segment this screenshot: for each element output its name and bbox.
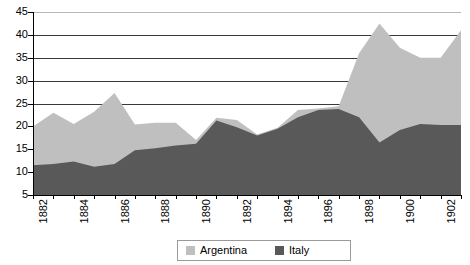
x-tick-mark-1887 (135, 195, 136, 199)
x-tick-mark-1903 (461, 195, 462, 199)
legend-item-argentina: Argentina (186, 244, 247, 256)
x-tick-label-1896: 1896 (323, 199, 334, 223)
x-tick-mark-1901 (420, 195, 421, 199)
x-tick-mark-1884 (74, 195, 75, 199)
stacked-area-chart: 51015202530354045 1882188418861888189018… (0, 0, 470, 265)
x-tick-mark-1900 (400, 195, 401, 199)
x-tick-mark-1892 (237, 195, 238, 199)
y-axis-line (33, 12, 34, 195)
y-tick-label-30: 30 (2, 75, 28, 86)
x-tick-mark-1882 (33, 195, 34, 199)
x-tick-mark-1888 (155, 195, 156, 199)
y-tick-label-40: 40 (2, 29, 28, 40)
legend-item-italy: Italy (275, 244, 309, 256)
y-tick-label-15: 15 (2, 143, 28, 154)
x-tick-label-1902: 1902 (446, 199, 457, 223)
y-tick-label-35: 35 (2, 52, 28, 63)
x-tick-mark-1897 (339, 195, 340, 199)
x-tick-label-1884: 1884 (79, 199, 90, 223)
x-tick-mark-1896 (318, 195, 319, 199)
y-tick-label-20: 20 (2, 120, 28, 131)
y-tick-label-25: 25 (2, 98, 28, 109)
x-tick-label-1894: 1894 (283, 199, 294, 223)
x-tick-mark-1895 (298, 195, 299, 199)
x-tick-mark-1899 (379, 195, 380, 199)
legend-swatch-argentina (186, 246, 195, 255)
x-tick-mark-1898 (359, 195, 360, 199)
series-layer (33, 12, 461, 195)
legend: Argentina Italy (177, 240, 351, 261)
x-tick-label-1900: 1900 (405, 199, 416, 223)
x-tick-mark-1894 (278, 195, 279, 199)
x-tick-mark-1891 (216, 195, 217, 199)
x-tick-label-1892: 1892 (242, 199, 253, 223)
legend-label-argentina: Argentina (200, 244, 247, 256)
x-axis-line (33, 195, 461, 196)
x-tick-mark-1886 (115, 195, 116, 199)
x-tick-label-1898: 1898 (364, 199, 375, 223)
legend-swatch-italy (275, 246, 284, 255)
x-tick-mark-1890 (196, 195, 197, 199)
y-tick-label-5: 5 (2, 189, 28, 200)
x-tick-mark-1883 (53, 195, 54, 199)
y-tick-label-45: 45 (2, 6, 28, 17)
x-tick-label-1882: 1882 (38, 199, 49, 223)
x-tick-mark-1893 (257, 195, 258, 199)
x-tick-mark-1902 (441, 195, 442, 199)
x-tick-label-1890: 1890 (201, 199, 212, 223)
plot-frame (33, 12, 461, 195)
x-tick-label-1886: 1886 (120, 199, 131, 223)
x-tick-mark-1889 (176, 195, 177, 199)
y-tick-label-10: 10 (2, 166, 28, 177)
x-tick-label-1888: 1888 (160, 199, 171, 223)
legend-label-italy: Italy (289, 244, 309, 256)
x-tick-mark-1885 (94, 195, 95, 199)
